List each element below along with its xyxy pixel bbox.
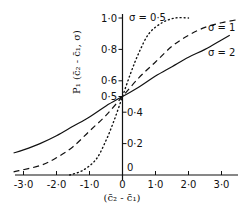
legend-label-sigma-0-5: σ = 0·5 [129,12,166,23]
y-tick-label: 0·4 [127,107,143,118]
x-axis-label: (c̄₂ - c̄₁) [104,192,141,203]
y-tick-label: 1·0 [101,13,117,24]
x-tick-label: 0 [119,179,125,190]
x-tick-label: 3·0 [214,179,230,190]
curves [14,18,238,175]
x-tick-label: 1·0 [148,179,164,190]
y-tick-label: 0 [127,162,133,173]
axes [15,14,238,180]
y-axis-label: P₁ (c̄₂ - c̄₁, σ) [71,30,82,94]
x-ticks: -3·0-2·0-1·001·02·03·0 [14,171,230,190]
curve-dashed [14,20,238,172]
x-tick-label: 2·0 [181,179,197,190]
curve-solid [14,35,230,153]
chart: -3·0-2·0-1·001·02·03·0 00·20·40·50·60·81… [0,0,250,215]
y-tick-label: 0·8 [101,44,117,55]
x-tick-label: -3·0 [14,179,34,190]
y-tick-label: 0·2 [127,138,143,149]
x-tick-label: -2·0 [47,179,67,190]
legend-label-sigma-2: σ = 2 [208,47,235,58]
x-tick-label: -1·0 [80,179,100,190]
legend-label-sigma-1: σ = 1 [208,22,235,33]
curve-dotted [70,18,189,175]
y-tick-label: 0·6 [101,75,117,86]
